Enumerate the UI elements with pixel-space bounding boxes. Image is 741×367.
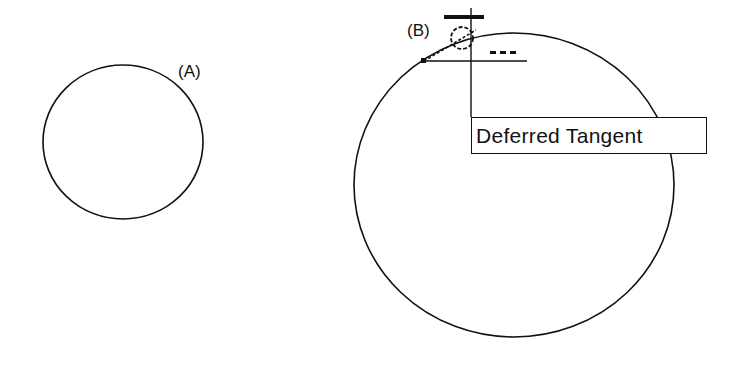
drawing-canvas[interactable] bbox=[0, 0, 741, 367]
circle-a-label: (A) bbox=[178, 63, 201, 80]
circle-a[interactable] bbox=[43, 65, 203, 219]
circle-b[interactable] bbox=[354, 33, 674, 337]
circle-b-label: (B) bbox=[407, 22, 430, 39]
snap-tooltip-text: Deferred Tangent bbox=[476, 124, 643, 148]
deferred-tangent-marker-icon bbox=[421, 8, 527, 117]
snap-tooltip: Deferred Tangent bbox=[471, 117, 707, 154]
